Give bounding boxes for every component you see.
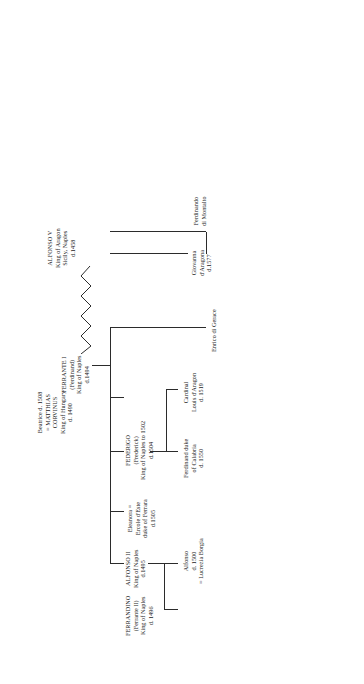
- node-ferdinand-calabria[interactable]: Ferdinand duke of Calabria d. 1550: [182, 439, 205, 478]
- connector-enrico-drop: [110, 327, 194, 328]
- node-line: (Frederick): [132, 421, 140, 480]
- node-ferdinando-di-montalto[interactable]: Ferdinando di Montalto: [192, 196, 207, 226]
- node-federigo[interactable]: FEDERIGO (Frederick) King of Naples to 1…: [124, 421, 154, 480]
- connector-lower-right-drop: [110, 253, 188, 254]
- node-line: King of Naples: [75, 355, 83, 394]
- node-line: FERRANDINO: [124, 596, 132, 636]
- node-line: = MATTHIAS: [44, 391, 52, 434]
- node-line: Alfonso: [182, 538, 190, 584]
- node-alfonso-v[interactable]: ALFONSO V King of Aragon Sicily, Naples …: [46, 228, 76, 268]
- node-alfonso-1500[interactable]: Alfonso d. 1500 = Lucrezia Borgia: [182, 538, 205, 584]
- node-line: d. 1496: [147, 596, 155, 636]
- node-line: d.1494: [83, 355, 91, 394]
- connector-alfonsoii-drop: [148, 563, 164, 564]
- node-ferrandino[interactable]: FERRANDINO (Ferrante II) King of Naples …: [124, 596, 154, 636]
- connector-drop-alfonso-1500: [164, 563, 178, 564]
- node-line: d.1504: [147, 421, 155, 480]
- node-line: (Ferrante II): [132, 596, 140, 636]
- connector-drop-ferdinand-calabria: [166, 451, 178, 452]
- node-line: d. 1550: [197, 439, 205, 478]
- node-line: di Montalto: [200, 196, 208, 226]
- connector-drop-eleanora: [110, 511, 124, 512]
- connector-drop-alfonso-ii: [110, 563, 124, 564]
- node-line: d.1505: [149, 499, 157, 538]
- node-beatrice[interactable]: Beatrice d. 1508 = MATTHIAS CORVINUS Kin…: [36, 391, 74, 434]
- node-line: Giovanna: [190, 250, 198, 276]
- node-line: King of Hungary: [59, 391, 67, 434]
- node-line: of Calabria: [190, 439, 198, 478]
- node-line: Louis d'Aragon: [190, 373, 198, 412]
- node-line: King of Naples: [139, 596, 147, 636]
- connector-federigo-children-bar: [166, 390, 167, 452]
- node-line: King of Naples: [132, 549, 140, 588]
- node-ferrante-i[interactable]: FERRANTE I (Ferdinand) King of Naples d.…: [60, 355, 90, 394]
- genealogy-chart-rotated: ALFONSO V King of Aragon Sicily, Naples …: [0, 0, 364, 684]
- node-alfonso-ii[interactable]: ALFONSO II King of Naples d.1495: [124, 549, 147, 588]
- connector-enrico-stub: [194, 327, 206, 328]
- node-line: Ferdinand duke: [182, 439, 190, 478]
- node-line: d.1458: [69, 228, 77, 268]
- node-line: d.1577: [205, 250, 213, 276]
- node-line: (Ferdinand): [68, 355, 76, 394]
- node-line: Enrico di Gerace: [210, 309, 218, 352]
- genealogy-sheet: ALFONSO V King of Aragon Sicily, Naples …: [0, 0, 364, 684]
- node-eleanora[interactable]: Eleanora = Ercole d'Este duke of Ferrara…: [126, 499, 156, 538]
- connector-ferrante-drop: [92, 365, 110, 366]
- connector-drop-ferrandino: [164, 609, 178, 610]
- connector-alfonsoii-children-bar: [164, 564, 165, 610]
- node-line: FERRANTE I: [60, 355, 68, 394]
- connector-enrico-bar: [110, 328, 111, 366]
- node-line: d.1495: [139, 549, 147, 588]
- node-line: Ferdinando: [192, 196, 200, 226]
- node-line: Eleanora =: [126, 499, 134, 538]
- connector-drop-cardinal-louis: [166, 389, 178, 390]
- connector-drop-beatrice: [110, 397, 124, 398]
- node-line: ALFONSO II: [124, 549, 132, 588]
- node-enrico-di-gerace[interactable]: Enrico di Gerace: [210, 309, 218, 352]
- node-giovanna[interactable]: Giovanna d'Aragona d.1577: [190, 250, 213, 276]
- node-line: Cardinal: [182, 373, 190, 412]
- node-line: Sicily, Naples: [61, 228, 69, 268]
- node-line: FEDERIGO: [124, 421, 132, 480]
- node-line: Ercole d'Este: [134, 499, 142, 538]
- node-line: duke of Ferrara: [141, 499, 149, 538]
- node-line: King of Naples to 1502: [139, 421, 147, 480]
- node-line: Beatrice d. 1508: [36, 391, 44, 434]
- node-line: d'Aragona: [198, 250, 206, 276]
- node-line: ALFONSO V: [46, 228, 54, 268]
- node-line: d. 1519: [197, 373, 205, 412]
- connector-children-bar: [110, 366, 111, 564]
- connector-drop-federigo: [110, 451, 124, 452]
- node-line: d. 1490: [66, 391, 74, 434]
- illegitimate-descent-zigzag: [78, 262, 94, 354]
- node-line: = Lucrezia Borgia: [197, 538, 205, 584]
- connector-giovanna-drop: [110, 231, 206, 232]
- node-line: CORVINUS: [51, 391, 59, 434]
- node-line: d. 1500: [190, 538, 198, 584]
- node-line: King of Aragon: [54, 228, 62, 268]
- node-cardinal-louis[interactable]: Cardinal Louis d'Aragon d. 1519: [182, 373, 205, 412]
